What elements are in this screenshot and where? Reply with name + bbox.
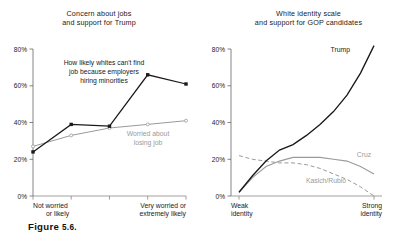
annotation-dark-series-line3: hiring minorities	[80, 77, 128, 85]
figure-caption-prefix: Figure	[28, 221, 62, 232]
y-tick-label-80-left: 80%	[14, 46, 27, 53]
series-label-cruz: Cruz	[357, 151, 372, 158]
y-tick-label-20-left: 20%	[14, 156, 27, 163]
x-tick-label-left-line2: or likely	[46, 210, 70, 218]
figure-caption: Figure 5.6.	[28, 221, 77, 232]
series-line-kasich-rubio	[239, 156, 374, 196]
x-tick-label-weak-line2: identity	[231, 210, 253, 218]
annotation-dark-series-line2: job because employers	[68, 68, 139, 76]
x-ticks-left	[33, 196, 186, 200]
x-tick-label-right-line2: extremely likely	[140, 210, 187, 218]
chart-panel-left: Concern about jobs and support for Trump…	[0, 0, 198, 215]
y-tick-label-0-left: 0%	[17, 193, 27, 200]
x-tick-label-left-line1: Not worried	[33, 202, 68, 209]
series-label-trump: Trump	[331, 46, 351, 54]
x-tick-label-strong-line2: identity	[360, 210, 382, 218]
chart-plot-right: 80% 60% 40% 20% 0% Weak identity Strong …	[198, 0, 419, 215]
y-ticks-left	[30, 49, 34, 196]
series-line-how-likely-whites-cant-find-job	[33, 75, 186, 152]
y-tick-label-0-right: 0%	[215, 193, 225, 200]
series-line-cruz	[239, 157, 374, 192]
x-ticks-right	[239, 196, 374, 200]
x-tick-label-right-line1: Very worried or	[140, 202, 186, 210]
annotation-gray-series-line2: losing job	[134, 139, 163, 147]
y-tick-label-20-right: 20%	[212, 156, 225, 163]
y-tick-label-60-left: 60%	[14, 82, 27, 89]
chart-panel-right: White identity scale and support for GOP…	[198, 0, 419, 215]
y-ticks-right	[228, 49, 232, 196]
x-tick-label-strong-line1: Strong	[362, 202, 382, 210]
annotation-dark-series-line1: How likely whites can't find	[64, 59, 145, 67]
series-markers-how-likely-whites-cant-find-job	[31, 73, 187, 153]
series-line-trump	[239, 46, 374, 193]
chart-plot-left: 80% 60% 40% 20% 0% Not worried or likely…	[0, 0, 198, 215]
figure-caption-number: 5.6.	[62, 223, 77, 232]
series-label-kasich-rubio: Kasich/Rubio	[306, 177, 346, 184]
y-tick-label-80-right: 80%	[212, 46, 225, 53]
y-tick-label-40-left: 40%	[14, 119, 27, 126]
annotation-gray-series-line1: Worried about	[127, 130, 170, 137]
y-tick-label-60-right: 60%	[212, 82, 225, 89]
y-tick-label-40-right: 40%	[212, 119, 225, 126]
x-tick-label-weak-line1: Weak	[231, 202, 249, 209]
figure-container: Concern about jobs and support for Trump…	[0, 0, 419, 241]
